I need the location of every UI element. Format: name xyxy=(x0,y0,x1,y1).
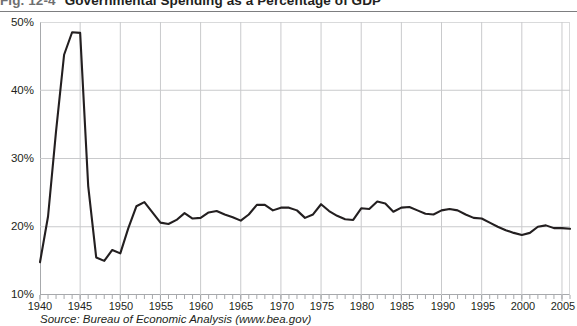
y-axis-label-20: 20% xyxy=(0,221,34,232)
x-axis-label-1965: 1965 xyxy=(221,300,261,312)
y-axis-label-10: 10% xyxy=(0,289,34,300)
line-chart xyxy=(0,0,577,326)
x-axis-label-1970: 1970 xyxy=(262,300,302,312)
x-axis-minor-ticks xyxy=(40,295,570,299)
y-axis-label-50: 50% xyxy=(0,17,34,28)
data-series-line xyxy=(40,32,570,262)
x-axis-label-1940: 1940 xyxy=(20,300,60,312)
horizontal-gridlines xyxy=(40,90,570,227)
y-axis-label-30: 30% xyxy=(0,153,34,164)
x-axis-label-2000: 2000 xyxy=(503,300,543,312)
figure-container: Fig. 12-4Governmental Spending as a Perc… xyxy=(0,0,577,326)
x-axis-label-1985: 1985 xyxy=(382,300,422,312)
x-axis-label-1990: 1990 xyxy=(423,300,463,312)
x-axis-label-1980: 1980 xyxy=(342,300,382,312)
x-axis-label-1975: 1975 xyxy=(302,300,342,312)
x-axis-label-1955: 1955 xyxy=(141,300,181,312)
x-axis-label-2005: 2005 xyxy=(543,300,577,312)
x-axis-label-1995: 1995 xyxy=(463,300,503,312)
x-axis-label-1950: 1950 xyxy=(101,300,141,312)
x-axis-label-1945: 1945 xyxy=(60,300,100,312)
x-axis-label-1960: 1960 xyxy=(181,300,221,312)
source-note: Source: Bureau of Economic Analysis (www… xyxy=(40,313,311,325)
y-axis-label-40: 40% xyxy=(0,85,34,96)
